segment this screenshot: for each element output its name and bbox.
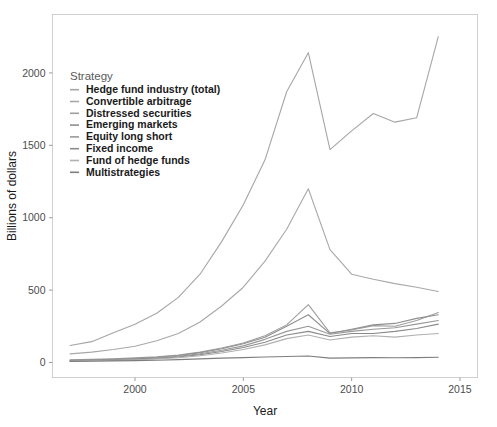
chart-container: 0500100015002000 2000200520102015 Year B… [0,0,497,427]
chart-background [0,0,497,427]
legend-item-label[interactable]: Fund of hedge funds [86,154,190,166]
y-tick-label: 2000 [22,67,46,79]
x-tick-label: 2015 [448,383,472,395]
y-tick-label: 500 [28,284,46,296]
legend-title: Strategy [70,70,113,82]
x-tick-label: 2000 [123,383,147,395]
legend-item-label[interactable]: Distressed securities [86,107,192,119]
y-tick-label: 1000 [22,211,46,223]
y-tick-label: 1500 [22,139,46,151]
legend-item-label[interactable]: Multistrategies [86,166,160,178]
legend-item-label[interactable]: Emerging markets [86,118,178,130]
legend-item-label[interactable]: Convertible arbitrage [86,95,192,107]
x-tick-label: 2005 [232,383,256,395]
y-axis-title: Billions of dollars [5,151,19,241]
legend-item-label[interactable]: Equity long short [86,130,173,142]
legend-item-label[interactable]: Fixed income [86,142,153,154]
y-tick-label: 0 [40,356,46,368]
legend-item-label[interactable]: Hedge fund industry (total) [86,83,220,95]
x-tick-label: 2010 [340,383,364,395]
x-axis-title: Year [253,404,277,418]
line-chart: 0500100015002000 2000200520102015 Year B… [0,0,497,427]
